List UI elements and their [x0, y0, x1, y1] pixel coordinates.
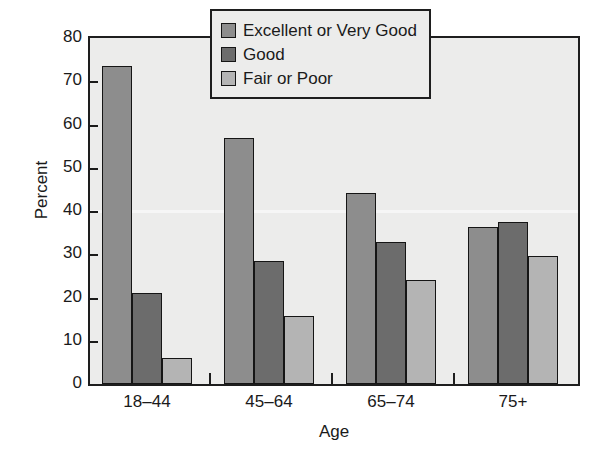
y-tick-mark — [90, 254, 98, 256]
y-tick-label: 40 — [30, 201, 82, 218]
y-tick-mark — [90, 211, 98, 213]
legend-label: Good — [243, 46, 285, 63]
x-tick-label: 45–64 — [245, 392, 292, 412]
y-axis-tick-labels: 01020304050607080 — [30, 26, 82, 394]
y-tick-mark — [90, 81, 98, 83]
y-tick-label: 20 — [30, 287, 82, 304]
bar — [406, 280, 436, 384]
y-tick-mark — [90, 341, 98, 343]
bar — [498, 222, 528, 384]
x-axis-tick-labels: 18–4445–6465–7475+ — [88, 392, 580, 418]
y-tick-mark — [90, 125, 98, 127]
bar — [376, 242, 406, 384]
bar — [162, 358, 192, 384]
legend: Excellent or Very GoodGoodFair or Poor — [210, 9, 431, 99]
y-tick-label: 80 — [30, 28, 82, 45]
bar — [102, 66, 132, 384]
bar — [132, 293, 162, 384]
x-tick-label: 18–44 — [123, 392, 170, 412]
y-tick-mark — [90, 298, 98, 300]
legend-swatch-icon — [221, 47, 236, 62]
scan-artifact — [90, 210, 578, 213]
bar — [284, 316, 314, 384]
x-tick-label: 65–74 — [367, 392, 414, 412]
bar — [346, 193, 376, 384]
bar — [224, 138, 254, 384]
legend-item: Good — [221, 42, 417, 66]
x-group-separator — [209, 373, 211, 384]
y-tick-label: 10 — [30, 330, 82, 347]
legend-item: Fair or Poor — [221, 66, 417, 90]
x-group-separator — [453, 373, 455, 384]
bar — [468, 227, 498, 384]
legend-swatch-icon — [221, 71, 236, 86]
y-tick-label: 50 — [30, 157, 82, 174]
bar — [254, 261, 284, 384]
legend-label: Excellent or Very Good — [243, 22, 417, 39]
x-tick-label: 75+ — [499, 392, 528, 412]
bar — [528, 256, 558, 384]
x-axis-title: Age — [88, 422, 580, 442]
y-tick-mark — [90, 168, 98, 170]
y-tick-label: 0 — [30, 374, 82, 391]
legend-swatch-icon — [221, 23, 236, 38]
legend-label: Fair or Poor — [243, 70, 333, 87]
legend-item: Excellent or Very Good — [221, 18, 417, 42]
y-tick-label: 70 — [30, 71, 82, 88]
y-tick-label: 30 — [30, 244, 82, 261]
y-tick-label: 60 — [30, 114, 82, 131]
bar-chart-figure: Percent 01020304050607080 18–4445–6465–7… — [0, 0, 607, 459]
x-group-separator — [331, 373, 333, 384]
